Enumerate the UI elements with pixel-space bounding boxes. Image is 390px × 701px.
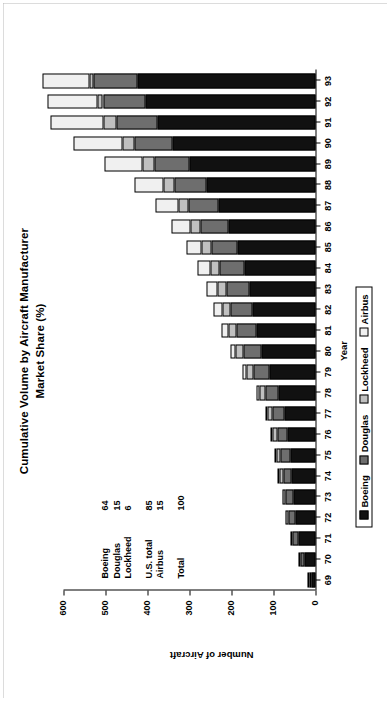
bar-segment-lockheed	[201, 240, 211, 255]
x-axis-label: Year	[337, 3, 348, 698]
bar-segment-boeing	[249, 281, 315, 296]
x-axis-tick	[315, 433, 320, 434]
bar-segment-airbus	[134, 177, 163, 192]
legend-item-airbus: Airbus	[358, 294, 369, 336]
y-axis-tick-label: 0	[309, 600, 319, 634]
bar-segment-lockheed	[259, 385, 265, 400]
bar-segment-lockheed	[190, 219, 200, 234]
bar-segment-douglas	[103, 94, 146, 109]
table-row	[290, 531, 315, 546]
bar-segment-douglas	[292, 531, 298, 546]
bar-segment-airbus	[50, 115, 104, 130]
x-axis-tick-label: 89	[322, 154, 332, 174]
bar-segment-boeing	[261, 344, 315, 359]
bar-segment-airbus	[155, 198, 178, 213]
chart-subtitle: Market Share (%)	[33, 3, 45, 698]
bar-segment-douglas	[253, 364, 269, 379]
y-axis-tick-label: 200	[225, 600, 235, 634]
x-axis-tick-label: 92	[322, 91, 332, 111]
table-row	[155, 198, 315, 213]
bar-segment-douglas	[200, 219, 228, 234]
bar-segment-boeing	[291, 468, 315, 483]
y-axis-tick	[315, 590, 316, 595]
bar-segment-douglas	[154, 156, 189, 171]
x-axis-tick	[315, 100, 320, 101]
x-axis-tick	[315, 267, 320, 268]
table-row	[271, 427, 315, 442]
bar-segment-boeing	[137, 73, 315, 88]
x-axis-tick	[315, 204, 320, 205]
bar-segment-lockheed	[298, 552, 300, 567]
table-row	[282, 489, 315, 504]
table-row	[213, 302, 315, 317]
x-axis-tick	[315, 391, 320, 392]
legend-swatch-douglas	[359, 455, 368, 464]
bar-segment-lockheed	[122, 136, 134, 151]
bar-segment-lockheed	[282, 489, 285, 504]
bar-segment-boeing	[311, 572, 315, 587]
table-row	[42, 73, 315, 88]
x-axis-tick-label: 93	[322, 70, 332, 90]
bar-segment-boeing	[244, 260, 315, 275]
bar-segment-lockheed	[210, 260, 219, 275]
bar-segment-airbus	[265, 406, 267, 421]
bar-segment-airbus	[270, 427, 272, 442]
bar-segment-lockheed	[276, 448, 280, 463]
legend-swatch-lockheed	[359, 394, 368, 403]
y-axis-tick-label: 500	[99, 600, 109, 634]
bar-segment-lockheed	[178, 198, 189, 213]
bar-segment-boeing	[278, 385, 315, 400]
table-row	[285, 510, 315, 525]
x-axis-tick	[315, 558, 320, 559]
x-axis-tick	[315, 121, 320, 122]
x-axis-tick	[315, 142, 320, 143]
table-row	[278, 468, 315, 483]
bar-segment-lockheed	[267, 406, 272, 421]
y-axis-tick-label: 100	[267, 600, 277, 634]
bar-segment-douglas	[272, 406, 284, 421]
legend-label: Boeing	[358, 475, 369, 507]
bar-segment-airbus	[221, 323, 228, 338]
bar-segment-airbus	[256, 385, 259, 400]
bar-segment-douglas	[230, 302, 252, 317]
legend-label: Airbus	[358, 294, 369, 324]
bar-segment-lockheed	[272, 427, 277, 442]
y-axis-tick-label: 300	[183, 600, 193, 634]
bar-segment-boeing	[284, 406, 315, 421]
bar-segment-boeing	[206, 177, 315, 192]
bar-segment-douglas	[285, 489, 293, 504]
legend-swatch-airbus	[359, 327, 368, 336]
bar-segment-douglas	[116, 115, 157, 130]
table-row	[256, 385, 315, 400]
bar-segment-airbus	[186, 240, 201, 255]
legend-item-boeing: Boeing	[358, 475, 369, 519]
bar-segment-douglas	[174, 177, 206, 192]
x-axis-tick-label: 91	[322, 112, 332, 132]
bar-segment-boeing	[293, 489, 315, 504]
x-axis-tick	[315, 475, 320, 476]
legend-item-douglas: Douglas	[358, 414, 369, 463]
x-axis-tick-label: 87	[322, 195, 332, 215]
x-axis-tick	[315, 183, 320, 184]
bar-segment-lockheed	[290, 531, 293, 546]
bar-segment-lockheed	[228, 323, 236, 338]
legend-swatch-boeing	[359, 510, 368, 519]
x-axis-tick	[315, 579, 320, 580]
bar-segment-douglas	[236, 323, 256, 338]
bar-segment-douglas	[93, 73, 137, 88]
table-row	[50, 115, 315, 130]
x-axis-tick	[315, 537, 320, 538]
y-axis-tick	[105, 590, 106, 595]
bar-segment-boeing	[157, 115, 315, 130]
x-axis-tick-label: 79	[322, 362, 332, 382]
bar-segment-douglas	[280, 448, 290, 463]
table-row	[104, 156, 315, 171]
bar-segment-boeing	[269, 364, 315, 379]
x-axis-tick-label: 83	[322, 278, 332, 298]
bar-segment-boeing	[304, 552, 315, 567]
x-axis-tick	[315, 454, 320, 455]
x-axis-tick-label: 77	[322, 403, 332, 423]
x-axis-tick	[315, 371, 320, 372]
table-row	[275, 448, 315, 463]
table-row	[73, 136, 315, 151]
